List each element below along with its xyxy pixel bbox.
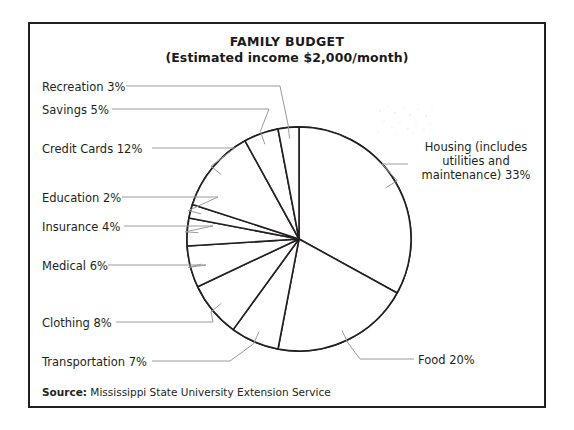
slice-label-clothing: Clothing 8% xyxy=(42,316,112,330)
slice-label-savings: Savings 5% xyxy=(42,103,109,117)
slice-label-recreation: Recreation 3% xyxy=(42,80,125,94)
slice-label-medical: Medical 6% xyxy=(42,259,108,273)
source-label: Source: xyxy=(42,386,87,398)
slice-label-insurance: Insurance 4% xyxy=(42,220,120,234)
leader-line-clothing xyxy=(116,303,221,322)
scan-speckle-artifact xyxy=(375,102,437,136)
source-text: Mississippi State University Extension S… xyxy=(90,386,330,398)
slice-label-transportation: Transportation 7% xyxy=(42,355,147,369)
leader-line-savings xyxy=(112,109,269,144)
slice-label-credit-cards: Credit Cards 12% xyxy=(42,142,142,156)
source-line: Source: Mississippi State University Ext… xyxy=(42,386,331,398)
pie-slice-group xyxy=(187,127,411,351)
slice-label-housing: Housing (includes utilities and maintena… xyxy=(412,140,540,182)
slice-label-education: Education 2% xyxy=(42,191,121,205)
leader-line-recreation xyxy=(126,86,290,139)
figure-frame: FAMILY BUDGET (Estimated income $2,000/m… xyxy=(28,22,546,408)
slice-label-food: Food 20% xyxy=(418,353,475,367)
